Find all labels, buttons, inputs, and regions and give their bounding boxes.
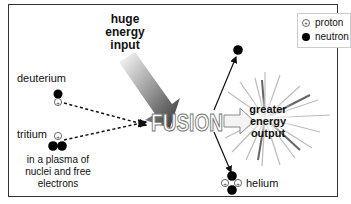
plasma-note-label: in a plasma of nuclei and free electrons <box>10 154 106 190</box>
deuterium-label: deuterium <box>17 72 66 84</box>
neutron-icon <box>302 33 310 41</box>
svg-text:+: + <box>304 20 308 26</box>
legend: + proton neutron <box>297 13 351 48</box>
energy-output-label: greater energy output <box>236 103 300 139</box>
svg-text:+: + <box>236 181 240 187</box>
legend-proton-label: proton <box>315 17 343 29</box>
helium-arrow <box>214 132 231 172</box>
helium-label: helium <box>246 177 278 189</box>
tritium-label: tritium <box>17 128 47 140</box>
svg-text:+: + <box>223 181 227 187</box>
deuterium-arrow <box>64 103 146 125</box>
tritium-arrow <box>64 122 146 140</box>
energy-input-label: huge energy input <box>90 13 160 52</box>
svg-text:+: + <box>56 134 60 140</box>
svg-text:+: + <box>56 100 60 106</box>
fusion-label: FUSION <box>151 109 223 136</box>
legend-neutron-label: neutron <box>315 31 349 43</box>
helium-nucleus-icon: + + <box>221 171 241 195</box>
free-neutron-icon <box>233 45 243 55</box>
tritium-nucleus-icon: + <box>48 132 67 150</box>
proton-icon: + <box>303 20 310 27</box>
neutron-arrow <box>214 57 236 110</box>
deuterium-nucleus-icon: + <box>54 90 63 106</box>
